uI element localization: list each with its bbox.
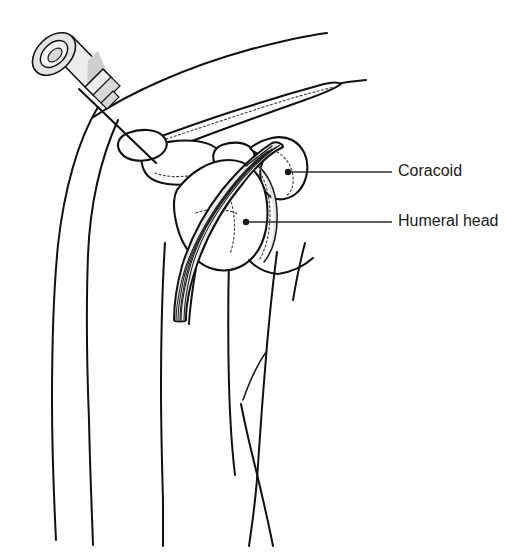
axillary-fold-contour xyxy=(228,258,235,475)
bone-group xyxy=(118,83,341,325)
label-coracoid: Coracoid xyxy=(285,162,462,179)
lateral-arm-contour xyxy=(161,243,165,546)
needle xyxy=(79,89,156,163)
illustration-figure: Coracoid Humeral head xyxy=(0,0,527,554)
humeral-head-label: Humeral head xyxy=(398,212,499,229)
clavicle-bone xyxy=(146,83,341,150)
body-contours xyxy=(52,33,366,546)
chest-wall-crossing-contour xyxy=(241,404,273,546)
shoulder-anatomy-drawing: Coracoid Humeral head xyxy=(0,0,527,554)
arm-inner-contour xyxy=(87,120,118,545)
coracoid-label: Coracoid xyxy=(398,162,462,179)
coracoid-leader-dot xyxy=(285,169,291,175)
label-humeral-head: Humeral head xyxy=(243,212,499,229)
humerus-shaft-right xyxy=(278,258,313,274)
humeral-head-leader-dot xyxy=(243,219,249,225)
neck-chest-contour xyxy=(293,243,305,300)
